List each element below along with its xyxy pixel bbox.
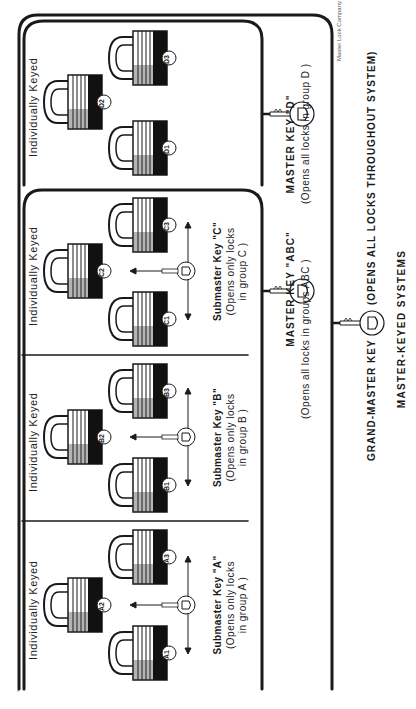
group-heading: Individually Keyed	[27, 561, 39, 660]
submaster-key-description: (Opens only locks	[225, 355, 237, 520]
submaster-key-description: in group B )	[237, 355, 249, 520]
submaster-key-description: in group A )	[237, 520, 249, 690]
submaster-key-description: in group C )	[237, 189, 249, 354]
submaster-key-label: Submaster Key "A"	[212, 520, 223, 690]
master-key-d-label: MASTER KEY "D"	[285, 84, 296, 204]
padlock-d1: D1	[105, 113, 177, 183]
group-heading: Individually Keyed	[27, 227, 39, 326]
group-d: Individually Keyed D2	[0, 20, 262, 185]
submaster-key-label: Submaster Key "C"	[212, 189, 223, 354]
master-key-abc-label: MASTER KEY "ABC"	[285, 189, 296, 389]
lock-label: D3	[163, 55, 170, 64]
submaster-key-description: (Opens only locks	[225, 520, 237, 690]
key-icon	[160, 259, 196, 283]
credit-label: Master Lock Company	[336, 1, 342, 61]
padlock-d3: D3	[105, 23, 177, 93]
lock-label: D1	[163, 145, 170, 154]
lock-label: B2	[98, 434, 105, 443]
group-a: Individually Keyed A2	[0, 520, 262, 690]
lock-label: D2	[98, 99, 105, 108]
key-icon	[160, 425, 196, 449]
group-c: Individually Keyed C2	[0, 189, 262, 354]
lock-label: C2	[98, 268, 105, 277]
padlock-c2: C2	[40, 236, 112, 306]
master-keyed-systems-diagram: Individually Keyed A2	[0, 0, 416, 709]
master-key-abc-description: (Opens all locks in groups ABC )	[300, 239, 311, 439]
key-icon	[160, 593, 196, 617]
diagram-title: MASTER-KEYED SYSTEMS	[396, 229, 407, 429]
grand-master-key-label: GRAND-MASTER KEY	[366, 339, 377, 461]
padlock-b2: B2	[40, 402, 112, 472]
submaster-key-label: Submaster Key "B"	[212, 355, 223, 520]
grand-master-key-description: (OPENS ALL LOCKS THROUGHOUT SYSTEM)	[366, 51, 377, 305]
group-heading: Individually Keyed	[27, 393, 39, 492]
group-b: Individually Keyed B2	[0, 355, 262, 520]
group-heading: Individually Keyed	[27, 58, 39, 157]
lock-label: A2	[98, 602, 105, 611]
padlock-d2: D2	[40, 67, 112, 137]
master-key-d-description: (Opens all locks in group D )	[300, 74, 311, 204]
submaster-key-description: (Opens only locks	[225, 189, 237, 354]
padlock-a2: A2	[40, 570, 112, 640]
grand-master-key-icon	[338, 308, 386, 338]
